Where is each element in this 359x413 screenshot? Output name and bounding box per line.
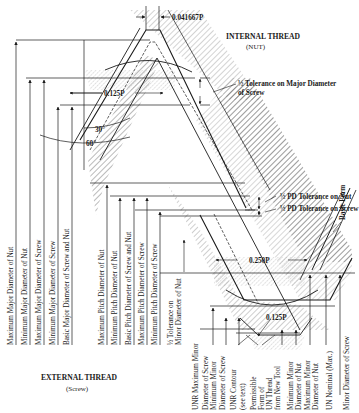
nut-root-width-label: 0.125P bbox=[104, 90, 125, 98]
half-tol-minor-nut-line-1: ½ Tolerance on bbox=[167, 300, 175, 345]
crest-flat-label: 0.041667P bbox=[172, 14, 204, 22]
min-major-diameter-nut-label: Minimum Major Diameter of Nut bbox=[21, 248, 29, 345]
internal-thread-title: INTERNAL THREAD bbox=[226, 32, 300, 41]
thread-profile-diagram: 0.041667P 0.125P 30° 60° 0.250P 0.125P I… bbox=[0, 0, 359, 413]
unr-max-minor-label: UNR Maximum Minor bbox=[192, 343, 200, 410]
external-thread-subtitle: (Screw) bbox=[66, 385, 89, 393]
basic-major-diameter-label: Basic Major Diameter of Screw and Nut bbox=[63, 229, 71, 345]
major-diameter-labels: Maximum Major Diameter of Nut Minimum Ma… bbox=[7, 229, 71, 345]
min-pitch-diameter-nut-label: Minimum Pitch Diameter of Nut bbox=[111, 251, 119, 345]
diameter-of-screw-label-2: Diameter of Screw bbox=[219, 355, 227, 410]
min-minor-nut-label-2: Diameter of Nut bbox=[295, 363, 303, 410]
form-of-label: Form of bbox=[258, 386, 266, 410]
permissible-label: Permissible bbox=[250, 376, 258, 410]
min-minor-label: Minimum Minor bbox=[210, 361, 218, 410]
minor-diameter-screw-label: Minor Diameter of Screw bbox=[343, 335, 351, 410]
max-minor-nut-label-2: Diameter of Nut bbox=[312, 363, 320, 410]
max-major-diameter-screw-label: Maximum Major Diameter of Screw bbox=[35, 239, 43, 345]
half-tol-major-screw-label-1: ½ Tolerance on Major Diameter bbox=[238, 80, 337, 88]
external-thread-title: EXTERNAL THREAD bbox=[41, 373, 118, 382]
basic-pitch-diameter-label: Basic Pitch Diameter of Screw and Nut bbox=[125, 232, 133, 345]
min-major-diameter-screw-label: Minimum Major Diameter of Screw bbox=[49, 240, 57, 345]
thread-angle-label: 60° bbox=[86, 140, 96, 148]
half-pd-tol-screw-label: ½ PD Tolerance on Screw bbox=[280, 205, 359, 213]
diameter-of-screw-label-1: Diameter of Screw bbox=[202, 355, 210, 410]
half-tol-major-screw-label-2: of Screw bbox=[238, 89, 265, 97]
unr-contour-label: UNR Contour bbox=[230, 369, 238, 410]
max-major-diameter-nut-label: Maximum Major Diameter of Nut bbox=[7, 247, 15, 345]
max-pitch-diameter-screw-label: Maximum Pitch Diameter of Screw bbox=[138, 242, 146, 345]
screw-root-width-label: 0.250P bbox=[249, 257, 270, 265]
un-nominal-max-label: UN Nominal (Max.) bbox=[326, 351, 334, 410]
see-text-label: (see text) bbox=[239, 383, 247, 410]
screw-root-radius-label: 0.125P bbox=[266, 314, 287, 322]
internal-thread-subtitle: (NUT) bbox=[246, 43, 266, 51]
max-minor-nut-label-1: Maximum Minor bbox=[304, 360, 312, 410]
min-minor-nut-label-1: Minimum Minor bbox=[287, 361, 295, 410]
basic-form-label: Basic Form bbox=[339, 185, 347, 220]
from-new-tool-label: from New Tool bbox=[274, 366, 282, 410]
half-angle-label: 30° bbox=[95, 126, 105, 134]
min-pitch-diameter-screw-label: Minimum Pitch Diameter of Screw bbox=[151, 243, 159, 345]
un-thread-label: UN Thread bbox=[266, 377, 274, 410]
half-tol-minor-nut-label: ½ Tolerance on Minor Diameter of Nut bbox=[167, 278, 183, 345]
max-pitch-diameter-nut-label: Maximum Pitch Diameter of Nut bbox=[98, 250, 106, 345]
half-tol-minor-nut-line-2: Minor Diameter of Nut bbox=[175, 278, 183, 345]
